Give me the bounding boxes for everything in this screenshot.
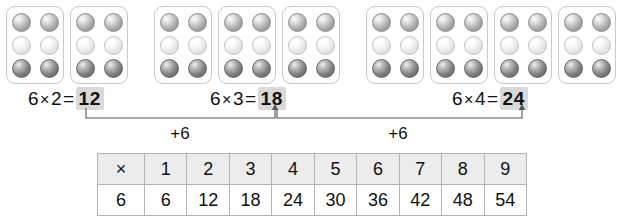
- bead-icon: [436, 36, 455, 55]
- bead-icon: [12, 13, 31, 32]
- bead-card: [70, 6, 128, 84]
- bead-row-middle: [564, 36, 611, 55]
- bead-icon: [252, 59, 271, 78]
- bead-icon: [188, 13, 207, 32]
- bead-card: [430, 6, 488, 84]
- bead-icon: [592, 13, 611, 32]
- table-header-cell-8: 8: [442, 154, 484, 185]
- bead-icon: [528, 59, 547, 78]
- table-header-cell-2: 2: [187, 154, 229, 185]
- bead-icon: [224, 36, 243, 55]
- table-header-cell-4: 4: [272, 154, 314, 185]
- bead-icon: [40, 13, 59, 32]
- bead-icon: [160, 59, 179, 78]
- bead-row-bottom: [288, 59, 335, 78]
- bead-icon: [40, 36, 59, 55]
- bead-icon: [40, 59, 59, 78]
- bead-icon: [76, 59, 95, 78]
- bead-icon: [528, 36, 547, 55]
- table-header-cell-9: 9: [484, 154, 527, 185]
- bead-card: [154, 6, 212, 84]
- table-header-cell-1: 1: [145, 154, 187, 185]
- bead-row-top: [76, 13, 123, 32]
- bead-icon: [288, 36, 307, 55]
- bead-icon: [400, 59, 419, 78]
- bracket-arrows-row: +6+6: [0, 104, 626, 150]
- table-data-row: 6 61218243036424854: [98, 185, 527, 216]
- bracket-18-to-24: [277, 104, 525, 118]
- bead-icon: [316, 59, 335, 78]
- bead-card: [558, 6, 616, 84]
- bead-row-bottom: [436, 59, 483, 78]
- bead-icon: [528, 13, 547, 32]
- bead-row-middle: [372, 36, 419, 55]
- bead-row-bottom: [76, 59, 123, 78]
- bead-icon: [76, 36, 95, 55]
- card-group-of-3: [154, 6, 340, 84]
- table-header-cell-5: 5: [314, 154, 356, 185]
- bead-row-top: [224, 13, 271, 32]
- bead-icon: [316, 36, 335, 55]
- bead-icon: [224, 13, 243, 32]
- bead-icon: [12, 59, 31, 78]
- bead-cards-row: [0, 0, 626, 90]
- bead-icon: [252, 36, 271, 55]
- bead-row-middle: [288, 36, 335, 55]
- bead-icon: [104, 13, 123, 32]
- table-header-cell-7: 7: [399, 154, 441, 185]
- table-header-cell-3: 3: [229, 154, 271, 185]
- bead-row-bottom: [372, 59, 419, 78]
- bead-icon: [188, 59, 207, 78]
- bead-icon: [372, 59, 391, 78]
- bead-icon: [436, 13, 455, 32]
- multiplication-table-wrapper: × 123456789 6 61218243036424854: [97, 153, 527, 216]
- bracket-label-plus-six: +6: [170, 124, 189, 144]
- table-cell-6x8: 48: [442, 185, 484, 216]
- bead-icon: [288, 13, 307, 32]
- table-cell-6x2: 12: [187, 185, 229, 216]
- table-cell-6x6: 36: [357, 185, 399, 216]
- bead-icon: [564, 36, 583, 55]
- bead-row-bottom: [160, 59, 207, 78]
- bead-icon: [104, 59, 123, 78]
- bead-row-top: [436, 13, 483, 32]
- table-header-times-symbol: ×: [98, 154, 145, 185]
- bead-row-top: [500, 13, 547, 32]
- bead-icon: [76, 13, 95, 32]
- bead-icon: [592, 36, 611, 55]
- bead-row-bottom: [12, 59, 59, 78]
- bead-icon: [592, 59, 611, 78]
- bead-icon: [500, 59, 519, 78]
- bead-row-middle: [500, 36, 547, 55]
- bead-row-top: [564, 13, 611, 32]
- bead-row-middle: [160, 36, 207, 55]
- bead-icon: [288, 59, 307, 78]
- bead-icon: [464, 59, 483, 78]
- bead-row-middle: [224, 36, 271, 55]
- table-header-cell-6: 6: [357, 154, 399, 185]
- bracket-12-to-18: [86, 104, 278, 118]
- bead-icon: [564, 13, 583, 32]
- bead-icon: [400, 36, 419, 55]
- bead-icon: [372, 13, 391, 32]
- bead-icon: [12, 36, 31, 55]
- table-header-row: × 123456789: [98, 154, 527, 185]
- bead-icon: [160, 13, 179, 32]
- bead-icon: [160, 36, 179, 55]
- bead-icon: [188, 36, 207, 55]
- table-cell-6x1: 6: [145, 185, 187, 216]
- bracket-label-plus-six: +6: [388, 124, 407, 144]
- bead-row-top: [160, 13, 207, 32]
- bead-card: [366, 6, 424, 84]
- bead-card: [494, 6, 552, 84]
- multiplication-table: × 123456789 6 61218243036424854: [97, 153, 527, 216]
- bead-row-top: [372, 13, 419, 32]
- bead-icon: [500, 36, 519, 55]
- bead-icon: [400, 13, 419, 32]
- bead-row-top: [288, 13, 335, 32]
- table-cell-6x4: 24: [272, 185, 314, 216]
- bead-card: [282, 6, 340, 84]
- bead-icon: [464, 13, 483, 32]
- bead-icon: [464, 36, 483, 55]
- card-group-of-4: [366, 6, 616, 84]
